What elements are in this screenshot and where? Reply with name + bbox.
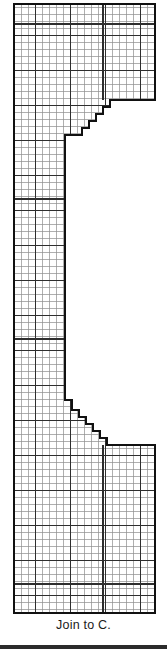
- chart-caption: Join to C.: [0, 618, 167, 632]
- page-footer-rule: [0, 645, 167, 649]
- pattern-chart-svg: [0, 0, 167, 652]
- pattern-chart-root: Join to C.: [0, 0, 167, 652]
